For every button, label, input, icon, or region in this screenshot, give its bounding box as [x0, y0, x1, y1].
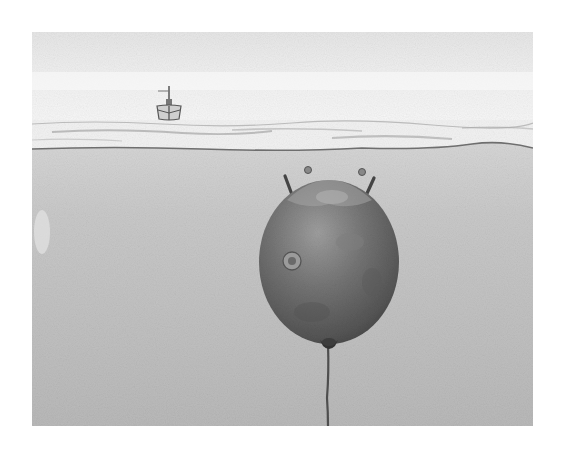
mooring-cable	[327, 344, 328, 426]
illustration-frame	[32, 32, 533, 426]
mine-illustration	[32, 32, 533, 426]
sky	[32, 32, 533, 124]
